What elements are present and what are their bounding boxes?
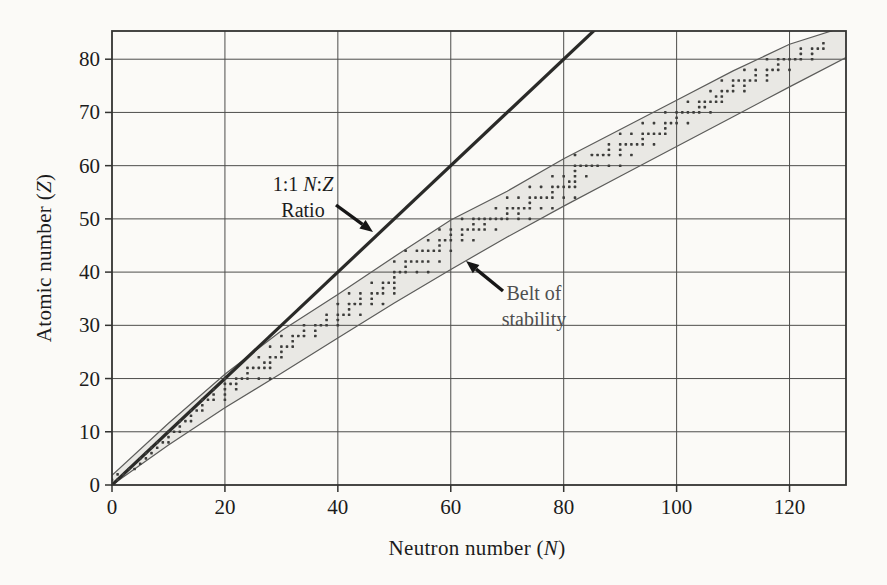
nuclide-dot xyxy=(788,58,791,61)
y-tick-label-10: 10 xyxy=(79,420,100,444)
nuclide-dot xyxy=(529,202,532,205)
nuclide-dot xyxy=(145,457,148,460)
nuclide-dot xyxy=(641,138,644,141)
nuclide-dot xyxy=(179,431,182,434)
belt-annotation-arrow xyxy=(466,261,503,291)
nuclide-dot xyxy=(337,319,340,322)
nuclide-dot xyxy=(416,250,419,253)
nuclide-dot xyxy=(280,351,283,354)
nuclide-dot xyxy=(167,436,170,439)
nuclide-dot xyxy=(619,164,622,167)
nuclide-dot xyxy=(641,143,644,146)
nuclide-dot xyxy=(602,154,605,157)
nuclide-dot xyxy=(619,143,622,146)
belt-annotation-line1: Belt of xyxy=(502,280,566,306)
nuclide-dot xyxy=(314,335,317,338)
nuclide-dot xyxy=(653,132,656,135)
nuclide-dot xyxy=(732,85,735,88)
nuclide-dot xyxy=(179,420,182,423)
nuclide-dot xyxy=(359,292,362,295)
nuclide-dot xyxy=(235,383,238,386)
nuclide-dot xyxy=(675,111,678,114)
ratio-annotation-line1: 1:1 N:Z xyxy=(273,171,334,197)
nuclide-dot xyxy=(766,74,769,77)
nuclide-dot xyxy=(359,313,362,316)
nuclide-dot xyxy=(263,361,266,364)
nuclide-dot xyxy=(743,85,746,88)
nuclide-dot xyxy=(416,271,419,274)
belt-of-stability-band xyxy=(112,23,857,485)
nuclide-dot xyxy=(506,196,509,199)
nuclide-dot xyxy=(715,101,718,104)
nuclide-dot xyxy=(811,58,814,61)
nuclide-dot xyxy=(517,207,520,210)
nuclide-dot xyxy=(653,143,656,146)
nuclide-dot xyxy=(393,260,396,263)
nuclide-dot xyxy=(574,164,577,167)
nuclide-dot xyxy=(212,399,215,402)
nuclide-dot xyxy=(461,218,464,221)
nuclide-dot xyxy=(619,154,622,157)
nuclide-dot xyxy=(472,218,475,221)
nuclide-dot xyxy=(201,399,204,402)
nuclide-dot xyxy=(675,122,678,125)
nuclide-dot xyxy=(280,335,283,338)
x-tick-label-40: 40 xyxy=(327,495,348,519)
nuclide-dot xyxy=(433,250,436,253)
nuclide-dot xyxy=(359,297,362,300)
nuclide-dot xyxy=(749,79,752,82)
nuclide-dot xyxy=(303,329,306,332)
nuclide-dot xyxy=(274,356,277,359)
nuclide-dot xyxy=(664,132,667,135)
nuclide-dot xyxy=(224,393,227,396)
ratio-annotation-line2: Ratio xyxy=(273,197,334,223)
nuclide-dot xyxy=(495,228,498,231)
nuclide-dot xyxy=(483,223,486,226)
nuclide-dot xyxy=(167,431,170,434)
nuclide-dot xyxy=(506,207,509,210)
nuclide-dot xyxy=(743,69,746,72)
nuclide-dot xyxy=(258,367,261,370)
nuclide-dot xyxy=(427,271,430,274)
nuclide-dot xyxy=(184,420,187,423)
stability-chart: 02040608010012001020304050607080 xyxy=(0,0,887,585)
nuclide-dot xyxy=(297,335,300,338)
nuclide-dot xyxy=(235,377,238,380)
nuclide-dot xyxy=(173,431,176,434)
nuclide-dot xyxy=(252,367,255,370)
nuclide-dot xyxy=(512,207,515,210)
nuclide-dot xyxy=(709,111,712,114)
nuclide-dot xyxy=(291,340,294,343)
nuclide-dot xyxy=(438,239,441,242)
nuclide-dot xyxy=(704,101,707,104)
nuclide-dot xyxy=(596,154,599,157)
nuclide-dot xyxy=(721,95,724,98)
nuclide-dot xyxy=(709,101,712,104)
nuclide-dot xyxy=(190,409,193,412)
nuclide-dot xyxy=(139,457,142,460)
nuclide-dot xyxy=(585,175,588,178)
nuclide-dot xyxy=(619,132,622,135)
nuclide-dot xyxy=(715,95,718,98)
nuclide-dot xyxy=(179,425,182,428)
nuclide-dot xyxy=(529,186,532,189)
nuclide-dot xyxy=(382,292,385,295)
figure-belt-of-stability: 02040608010012001020304050607080 Neutron… xyxy=(0,0,887,585)
nuclide-dot xyxy=(551,175,554,178)
nuclide-dot xyxy=(568,186,571,189)
nuclide-dot xyxy=(450,234,453,237)
nuclide-dot xyxy=(382,281,385,284)
nuclide-dot xyxy=(517,218,520,221)
nuclide-dot xyxy=(647,132,650,135)
nuclide-dot xyxy=(145,452,148,455)
nuclide-dot xyxy=(472,239,475,242)
nuclide-dot xyxy=(195,409,198,412)
nuclide-dot xyxy=(116,478,119,481)
nuclide-dot xyxy=(416,260,419,263)
nuclide-dot xyxy=(150,446,153,449)
nuclide-dot xyxy=(320,324,323,327)
nuclide-dot xyxy=(754,69,757,72)
nuclide-dot xyxy=(591,154,594,157)
nuclide-dot xyxy=(529,196,532,199)
nuclide-dot xyxy=(246,377,249,380)
